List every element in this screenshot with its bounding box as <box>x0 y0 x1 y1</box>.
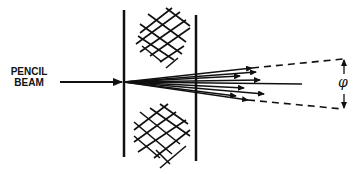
angle-phi-label: φ <box>338 74 348 90</box>
scattering-diagram <box>0 0 356 174</box>
crosshatch-bottom <box>134 104 190 168</box>
crosshatch-top <box>136 8 190 68</box>
scattered-rays <box>124 68 302 100</box>
